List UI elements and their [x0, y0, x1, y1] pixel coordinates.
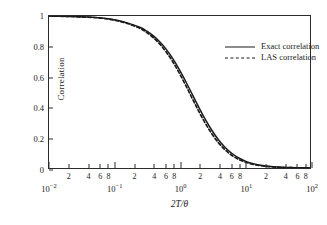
x-minor-tick-label: 4	[87, 173, 91, 181]
y-tick-mark	[49, 139, 53, 140]
y-tick-mark	[49, 16, 53, 17]
x-major-tick-label: 10−1	[107, 185, 122, 194]
plot-canvas	[49, 16, 310, 168]
x-minor-tick-label: 4	[284, 173, 288, 181]
x-minor-tick-label: 4	[152, 173, 156, 181]
series-line-exact	[49, 16, 310, 168]
legend-item-las: LAS correlation	[225, 52, 319, 63]
x-minor-tick-mark	[88, 164, 89, 168]
y-tick-label: 0.4	[14, 104, 49, 113]
x-minor-tick-mark	[154, 164, 155, 168]
x-minor-tick-mark	[165, 164, 166, 168]
x-minor-tick-mark	[68, 164, 69, 168]
x-minor-tick-mark	[231, 164, 232, 168]
legend-label-las: LAS correlation	[261, 53, 316, 62]
x-minor-tick-label: 2	[133, 173, 137, 181]
x-major-tick-label: 102	[306, 185, 318, 194]
x-major-tick-label: 100	[175, 185, 187, 194]
x-minor-tick-mark	[108, 164, 109, 168]
x-major-tick-label: 101	[240, 185, 252, 194]
legend-label-exact: Exact correlation	[261, 42, 319, 51]
y-tick-mark	[49, 77, 53, 78]
series-line-las	[49, 16, 310, 168]
x-major-tick-mark	[49, 162, 50, 168]
x-minor-tick-label: 2	[67, 173, 71, 181]
y-tick-mark	[49, 46, 53, 47]
x-minor-tick-mark	[220, 164, 221, 168]
legend-item-exact: Exact correlation	[225, 41, 319, 52]
y-axis-title: Correlation	[56, 31, 66, 127]
x-minor-tick-label: 4	[218, 173, 222, 181]
x-minor-tick-mark	[285, 164, 286, 168]
y-tick-label: 0	[14, 166, 49, 175]
x-minor-tick-mark	[266, 164, 267, 168]
y-tick-mark	[49, 108, 53, 109]
x-minor-tick-label: 6	[164, 173, 168, 181]
x-minor-tick-label: 6	[295, 173, 299, 181]
x-major-tick-mark	[180, 162, 181, 168]
y-tick-label: 0.6	[14, 73, 49, 82]
y-tick-mark	[49, 170, 53, 171]
x-minor-tick-mark	[174, 164, 175, 168]
x-minor-tick-label: 6	[230, 173, 234, 181]
x-minor-tick-label: 6	[98, 173, 102, 181]
correlation-figure: 00.20.40.60.81 10−210−110010110224682468…	[0, 0, 327, 225]
x-major-tick-mark	[114, 162, 115, 168]
x-minor-tick-mark	[239, 164, 240, 168]
x-minor-tick-label: 8	[304, 173, 308, 181]
x-minor-tick-mark	[100, 164, 101, 168]
x-minor-tick-mark	[305, 164, 306, 168]
y-tick-label: 0.2	[14, 135, 49, 144]
legend-line-dashed-icon	[225, 54, 255, 62]
legend-line-solid-icon	[225, 43, 255, 51]
x-minor-tick-mark	[297, 164, 298, 168]
plot-frame: 00.20.40.60.81 10−210−110010110224682468…	[48, 15, 311, 169]
x-minor-tick-label: 2	[198, 173, 202, 181]
x-minor-tick-mark	[134, 164, 135, 168]
x-minor-tick-mark	[200, 164, 201, 168]
x-axis-title: 2T/θ	[48, 199, 311, 209]
x-major-tick-mark	[312, 162, 313, 168]
y-tick-label: 0.8	[14, 43, 49, 52]
x-major-tick-label: 10−2	[41, 185, 56, 194]
x-minor-tick-label: 8	[238, 173, 242, 181]
chart-legend: Exact correlation LAS correlation	[225, 41, 319, 63]
x-minor-tick-label: 8	[172, 173, 176, 181]
x-minor-tick-label: 8	[106, 173, 110, 181]
x-minor-tick-label: 2	[264, 173, 268, 181]
x-major-tick-mark	[246, 162, 247, 168]
y-tick-label: 1	[14, 12, 49, 21]
